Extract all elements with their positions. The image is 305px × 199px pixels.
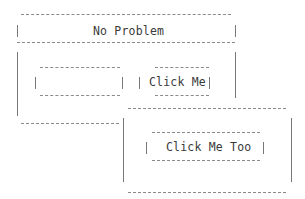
click-me-too-button-label: Click Me Too bbox=[166, 140, 251, 154]
click-me-too-button-bottom-border bbox=[152, 160, 260, 161]
top-panel-left-border bbox=[17, 52, 18, 98]
text-input-bottom-border bbox=[40, 95, 120, 96]
top-panel-right-border bbox=[235, 52, 236, 98]
title-bar-top-border bbox=[21, 14, 231, 15]
text-input-left-border bbox=[35, 77, 36, 89]
click-me-button-bottom-border bbox=[155, 95, 209, 96]
bottom-panel-right-border bbox=[291, 118, 292, 182]
text-input-right-border bbox=[122, 77, 123, 89]
click-me-too-button-right-border bbox=[263, 142, 264, 154]
bottom-panel-left-border bbox=[123, 118, 124, 182]
title-bar-label: No Problem bbox=[93, 24, 164, 38]
click-me-too-button-left-border bbox=[146, 142, 147, 154]
click-me-button-label: Click Me bbox=[149, 75, 206, 89]
click-me-button[interactable]: Click Me bbox=[137, 67, 213, 95]
click-me-button-right-border bbox=[209, 77, 210, 89]
title-bar-left-border bbox=[17, 25, 18, 37]
bottom-panel-bottom-border bbox=[128, 192, 286, 193]
click-me-button-top-border bbox=[155, 67, 209, 68]
click-me-button-left-border bbox=[139, 77, 140, 89]
top-panel-left-border-lower bbox=[17, 98, 18, 116]
top-panel-bottom-border bbox=[21, 123, 119, 124]
text-input[interactable] bbox=[34, 67, 126, 95]
bottom-panel: Click Me Too bbox=[122, 108, 290, 192]
title-bar-right-border bbox=[235, 25, 236, 37]
text-input-top-border bbox=[40, 67, 120, 68]
click-me-too-button[interactable]: Click Me Too bbox=[144, 132, 264, 160]
bottom-panel-top-border bbox=[128, 108, 286, 109]
title-bar-bottom-border bbox=[17, 42, 235, 43]
click-me-too-button-top-border bbox=[152, 132, 260, 133]
